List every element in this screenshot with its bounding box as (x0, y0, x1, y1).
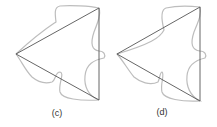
wavy-curve-d (117, 6, 206, 101)
triangle-c (16, 8, 99, 100)
panel-c (16, 6, 105, 101)
panel-d (117, 6, 206, 101)
panel-label-c: (c) (42, 108, 72, 118)
figure: (c) (d) (0, 0, 217, 127)
wavy-curve-c (16, 6, 105, 101)
panel-label-d: (d) (147, 107, 177, 117)
diagram-canvas (0, 0, 217, 127)
